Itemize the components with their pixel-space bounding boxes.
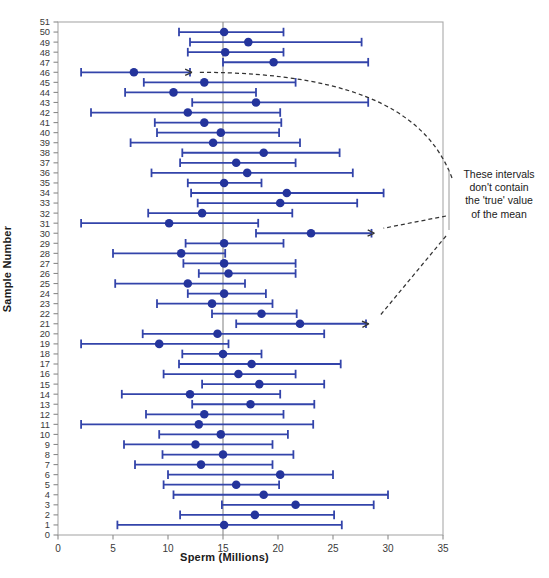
annotation-line-4: of the mean (451, 208, 547, 221)
y-tick-label: 28 (40, 249, 50, 259)
y-tick-label: 26 (40, 269, 50, 279)
y-tick-label: 16 (40, 369, 50, 379)
y-tick-label: 23 (40, 299, 50, 309)
y-tick-label: 48 (40, 48, 50, 58)
y-tick-label: 35 (40, 178, 50, 188)
y-tick-label: 11 (40, 420, 50, 430)
y-tick-label: 46 (40, 68, 50, 78)
y-tick-label: 50 (40, 27, 50, 37)
y-tick-label: 38 (40, 148, 50, 158)
y-tick-label: 34 (40, 188, 50, 198)
annotation-note: These intervals don't contain the 'true'… (451, 168, 547, 221)
chart-canvas: 0510152025303501234567891011121314151617… (0, 0, 549, 578)
y-tick-label: 41 (40, 118, 50, 128)
x-axis-label: Sperm (Millions) (0, 551, 449, 563)
y-tick-label: 47 (40, 58, 50, 68)
y-tick-label: 2 (45, 510, 50, 520)
y-tick-label: 17 (40, 359, 50, 369)
y-tick-label: 10 (40, 430, 50, 440)
y-tick-label: 20 (40, 329, 50, 339)
y-tick-label: 6 (45, 470, 50, 480)
y-tick-label: 13 (40, 400, 50, 410)
y-tick-label: 39 (40, 138, 50, 148)
confidence-interval-chart: 0510152025303501234567891011121314151617… (0, 0, 549, 578)
y-tick-label: 37 (40, 158, 50, 168)
y-tick-label: 24 (40, 289, 50, 299)
y-tick-label: 22 (40, 309, 50, 319)
y-tick-label: 31 (40, 219, 50, 229)
y-tick-label: 32 (40, 209, 50, 219)
y-tick-label: 19 (40, 339, 50, 349)
y-tick-label: 21 (40, 319, 50, 329)
y-tick-label: 29 (40, 239, 50, 249)
y-tick-label: 27 (40, 259, 50, 269)
y-tick-label: 18 (40, 349, 50, 359)
y-tick-label: 25 (40, 279, 50, 289)
y-tick-label: 33 (40, 198, 50, 208)
y-tick-label: 8 (45, 450, 50, 460)
y-axis-label: Sample Number (1, 184, 13, 354)
y-tick-label: 43 (40, 98, 50, 108)
y-tick-label: 4 (45, 490, 50, 500)
y-tick-label: 36 (40, 168, 50, 178)
y-tick-label: 14 (40, 390, 50, 400)
y-tick-label: 7 (45, 460, 50, 470)
y-tick-label: 1 (45, 520, 50, 530)
y-tick-label: 40 (40, 128, 50, 138)
y-tick-label: 44 (40, 88, 50, 98)
y-tick-label: 9 (45, 440, 50, 450)
annotation-line-2: don't contain (451, 181, 547, 194)
annotation-line-3: the 'true' value (451, 194, 547, 207)
y-tick-label: 42 (40, 108, 50, 118)
annotation-line-1: These intervals (451, 168, 547, 181)
y-tick-label: 49 (40, 38, 50, 48)
y-tick-label: 15 (40, 380, 50, 390)
y-tick-label: 30 (40, 229, 50, 239)
y-tick-label: 51 (40, 17, 50, 27)
plot-frame (58, 22, 443, 535)
y-tick-label: 45 (40, 78, 50, 88)
y-tick-label: 3 (45, 500, 50, 510)
y-tick-label: 0 (45, 530, 50, 540)
y-tick-label: 5 (45, 480, 50, 490)
y-tick-label: 12 (40, 410, 50, 420)
